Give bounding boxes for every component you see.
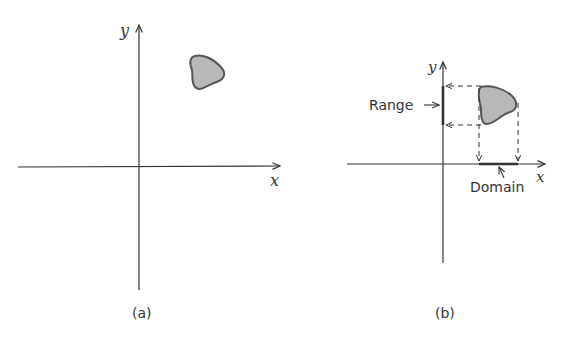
y-axis-label: y [119,21,130,40]
domain-label: Domain [470,179,524,195]
domain-range-diagram: y x (a) y x Range Domain (b) [0,0,569,340]
range-label: Range [369,97,413,113]
caption-a: (a) [132,305,152,321]
x-axis-label: x [270,171,279,190]
y-axis-label: y [427,58,437,76]
panel-a: y x (a) [18,21,280,321]
region-shape [479,86,516,124]
region-shape [190,55,224,88]
domain-pointer-arrow [499,167,504,178]
panel-b: y x Range Domain (b) [347,58,545,321]
caption-b: (b) [435,305,455,321]
x-axis [18,166,280,167]
x-axis-label: x [536,168,545,186]
